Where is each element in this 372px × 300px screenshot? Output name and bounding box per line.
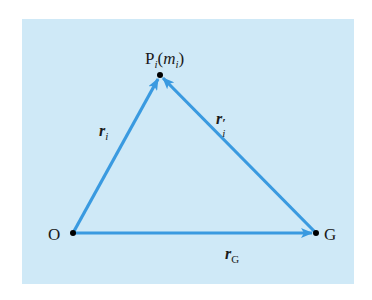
diagram-canvas: [0, 0, 372, 300]
vector-r-g-subscript: G: [231, 253, 239, 265]
point-p-label: Pi(mi): [145, 50, 184, 70]
point-g-dot: [313, 230, 319, 236]
point-o-label: O: [48, 226, 60, 243]
point-g-label: G: [324, 226, 336, 243]
vector-r-i-prime-label: r′i: [216, 111, 230, 127]
mass-symbol: m: [163, 49, 175, 68]
vector-r-i-prime-subscript: i: [222, 128, 225, 139]
vector-r-i-label: ri: [99, 123, 108, 142]
diagram-background: [22, 19, 354, 284]
point-o-dot: [70, 230, 76, 236]
vector-r-g-label: rG: [225, 246, 239, 265]
vector-r-i-subscript: i: [105, 130, 108, 142]
paren-close: ): [179, 49, 185, 68]
point-p-dot: [157, 72, 163, 78]
